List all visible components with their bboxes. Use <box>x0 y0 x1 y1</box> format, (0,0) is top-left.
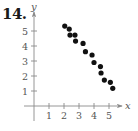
data-point <box>83 49 88 54</box>
y-axis-label: y <box>30 1 37 12</box>
y-tick-label: 3 <box>22 56 28 67</box>
data-point <box>110 86 115 91</box>
x-tick-label: 5 <box>106 110 112 121</box>
x-tick-label: 4 <box>91 110 97 121</box>
y-tick-label: 1 <box>22 86 28 97</box>
data-point <box>80 41 85 46</box>
x-tick-label: 2 <box>61 110 67 121</box>
y-tick-label: 4 <box>22 41 28 52</box>
y-tick-label: 5 <box>22 26 28 37</box>
data-points <box>62 23 115 90</box>
data-point <box>67 32 72 37</box>
data-point <box>67 26 72 31</box>
data-point <box>91 60 96 65</box>
data-point <box>98 70 103 75</box>
data-point <box>72 32 77 37</box>
y-ticks: 12345 <box>22 26 37 97</box>
data-point <box>102 77 107 82</box>
x-tick-label: 3 <box>76 110 82 121</box>
data-point <box>89 52 94 57</box>
data-point <box>98 64 103 69</box>
data-point <box>73 38 78 43</box>
data-point <box>108 80 113 85</box>
data-point <box>62 23 67 28</box>
y-tick-label: 2 <box>22 71 28 82</box>
scatter-plot: x y 12345 12345 <box>0 0 138 131</box>
x-tick-label: 1 <box>46 110 52 121</box>
x-axis-label: x <box>125 100 131 111</box>
